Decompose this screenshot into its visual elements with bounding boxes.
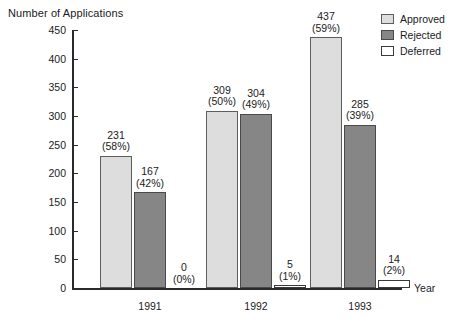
y-tick-label: 350 xyxy=(26,81,72,93)
bar-value-percent: (59%) xyxy=(312,23,340,35)
bar-value-label: 231(58%) xyxy=(102,130,130,153)
bar-rejected-1993[interactable] xyxy=(344,125,376,288)
bar-value-label: 0(0%) xyxy=(173,262,195,285)
bar-deferred-1993[interactable] xyxy=(378,280,410,288)
y-tick-label: 450 xyxy=(26,24,72,36)
x-axis-line xyxy=(72,288,402,290)
bar-value-number: 167 xyxy=(136,166,164,178)
bars-layer: 231(58%)167(42%)0(0%)309(50%)304(49%)5(1… xyxy=(74,30,402,288)
x-tick-label-1992: 1992 xyxy=(244,300,267,312)
bar-value-number: 304 xyxy=(242,88,270,100)
legend-item-approved[interactable]: Approved xyxy=(381,13,445,25)
y-tick-label: 150 xyxy=(26,196,72,208)
bar-value-percent: (42%) xyxy=(136,178,164,190)
legend: Approved Rejected Deferred xyxy=(381,13,445,57)
bar-rejected-1992[interactable] xyxy=(240,114,272,288)
bar-value-number: 0 xyxy=(173,262,195,274)
bar-value-label: 14(2%) xyxy=(383,254,405,277)
bar-rejected-1991[interactable] xyxy=(134,192,166,288)
legend-label-approved: Approved xyxy=(400,13,445,25)
y-tick-label: 250 xyxy=(26,139,72,151)
bar-value-label: 285(39%) xyxy=(346,99,374,122)
y-tick-label: 300 xyxy=(26,110,72,122)
bar-value-number: 285 xyxy=(346,99,374,111)
legend-label-rejected: Rejected xyxy=(400,29,441,41)
bar-value-percent: (1%) xyxy=(279,271,301,283)
legend-label-deferred: Deferred xyxy=(400,45,441,57)
bar-value-number: 231 xyxy=(102,130,130,142)
legend-swatch-deferred-icon xyxy=(381,46,394,56)
legend-item-rejected[interactable]: Rejected xyxy=(381,29,445,41)
bar-value-label: 167(42%) xyxy=(136,166,164,189)
bar-chart: Number of Applications 45040035030025020… xyxy=(0,0,462,326)
bar-value-percent: (0%) xyxy=(173,274,195,286)
bar-value-percent: (49%) xyxy=(242,99,270,111)
bar-approved-1991[interactable] xyxy=(100,156,132,288)
bar-approved-1993[interactable] xyxy=(310,37,342,288)
bar-value-percent: (2%) xyxy=(383,265,405,277)
x-tick-label-1991: 1991 xyxy=(138,300,161,312)
bar-deferred-1992[interactable] xyxy=(274,285,306,288)
bar-value-number: 14 xyxy=(383,254,405,266)
x-axis-title: Year xyxy=(414,282,435,294)
legend-swatch-approved-icon xyxy=(381,14,394,24)
bar-value-percent: (39%) xyxy=(346,110,374,122)
y-tick-label: 0 xyxy=(26,282,72,294)
y-tick-label: 50 xyxy=(26,253,72,265)
y-tick-label: 400 xyxy=(26,53,72,65)
bar-approved-1992[interactable] xyxy=(206,111,238,288)
legend-swatch-rejected-icon xyxy=(381,30,394,40)
bar-value-label: 309(50%) xyxy=(208,85,236,108)
y-tick-label: 200 xyxy=(26,167,72,179)
bar-value-label: 5(1%) xyxy=(279,259,301,282)
bar-value-label: 304(49%) xyxy=(242,88,270,111)
bar-value-number: 5 xyxy=(279,259,301,271)
bar-value-number: 437 xyxy=(312,11,340,23)
x-tick-label-1993: 1993 xyxy=(348,300,371,312)
bar-value-label: 437(59%) xyxy=(312,11,340,34)
y-axis-title: Number of Applications xyxy=(8,7,123,19)
y-tick-mark xyxy=(72,288,78,289)
bar-value-percent: (58%) xyxy=(102,141,130,153)
legend-item-deferred[interactable]: Deferred xyxy=(381,45,445,57)
bar-value-percent: (50%) xyxy=(208,96,236,108)
bar-value-number: 309 xyxy=(208,85,236,97)
y-tick-label: 100 xyxy=(26,225,72,237)
